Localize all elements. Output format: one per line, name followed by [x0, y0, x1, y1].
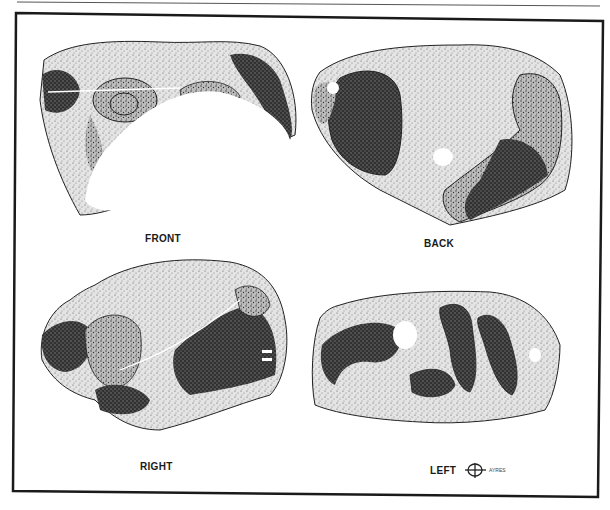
label-back: BACK — [424, 238, 454, 249]
label-front: FRONT — [145, 233, 181, 244]
left-view-drawing — [312, 291, 560, 423]
label-left: LEFT — [430, 465, 456, 476]
artist-signature-icon — [465, 463, 486, 478]
artist-signature-text: AYRES — [489, 467, 506, 473]
illustration-plate — [0, 0, 610, 510]
front-view-drawing — [40, 41, 296, 215]
back-view-drawing — [311, 45, 571, 225]
right-view-drawing — [41, 260, 287, 430]
top-rule — [17, 2, 600, 6]
label-right: RIGHT — [140, 461, 173, 472]
